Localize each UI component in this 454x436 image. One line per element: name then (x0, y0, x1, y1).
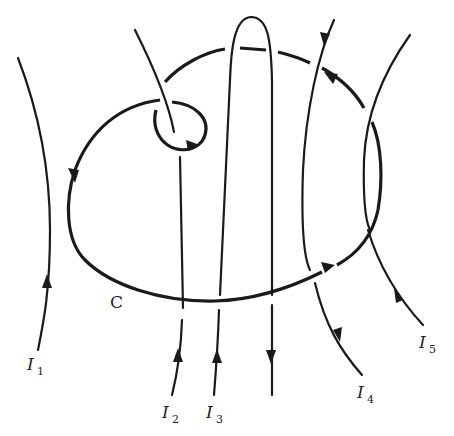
loop-c (68, 48, 381, 301)
svg-text:I: I (26, 354, 34, 374)
svg-text:3: 3 (216, 413, 223, 426)
label-i5: I 5 (418, 332, 436, 356)
ampere-loop-diagram: C I 1 I 2 I 3 I 4 I 5 (0, 0, 454, 436)
arrow-icon (324, 72, 338, 84)
svg-text:4: 4 (367, 393, 374, 406)
arrow-icon (321, 262, 335, 273)
arrow-up-icon (42, 274, 52, 288)
svg-text:I: I (356, 382, 364, 402)
svg-text:5: 5 (429, 343, 436, 356)
arrow-up-icon (173, 348, 183, 362)
arrow-down-icon (320, 32, 330, 46)
wire-i2 (135, 30, 183, 395)
label-i4: I 4 (356, 382, 374, 406)
wire-i5 (364, 35, 423, 325)
arrow-up-icon (394, 288, 403, 303)
wire-i1 (18, 58, 52, 350)
label-i2: I 2 (161, 402, 179, 426)
svg-text:1: 1 (37, 365, 44, 378)
wire-i3 (212, 17, 276, 395)
loop-label-c: C (110, 292, 123, 312)
svg-text:I: I (161, 402, 169, 422)
arrow-down-icon (266, 350, 276, 364)
label-i3: I 3 (205, 402, 223, 426)
svg-text:I: I (418, 332, 426, 352)
arrow-up-icon (212, 349, 222, 363)
label-i1: I 1 (26, 354, 44, 378)
svg-text:I: I (205, 402, 213, 422)
svg-text:2: 2 (172, 413, 179, 426)
